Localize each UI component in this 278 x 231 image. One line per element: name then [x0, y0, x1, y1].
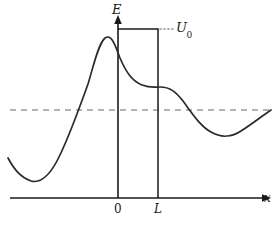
energy-curve-path [8, 37, 271, 181]
origin-tick-label: 0 [114, 203, 122, 215]
e-axis-label: E [112, 3, 122, 16]
x-axis-label: x [264, 192, 271, 204]
figure-canvas [0, 0, 278, 231]
barrier-height-label: U0 [176, 21, 193, 38]
potential-barrier-figure: E x U0 0 L [0, 0, 278, 231]
barrier-height-subscript: 0 [186, 30, 192, 40]
barrier-width-tick-label: L [154, 203, 162, 215]
barrier-outline [118, 29, 158, 198]
